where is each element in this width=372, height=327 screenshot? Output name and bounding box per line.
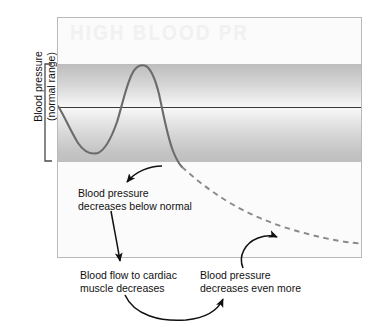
figure-blood-pressure-feedback: Blood pressure (normal range) HIGH BLOOD… [0, 0, 372, 327]
arrow-to-dashed-curve [241, 236, 277, 268]
annotation-bp-even-more-line1: Blood pressure [200, 269, 301, 282]
annotation-bp-even-more-line2: decreases even more [200, 282, 301, 295]
arrow-blood-flow-to-bp-more [125, 295, 223, 320]
arrow-to-bp-below-normal [127, 166, 162, 182]
annotation-blood-flow-cardiac: Blood flow to cardiac muscle decreases [80, 269, 177, 295]
arrow-to-blood-flow [111, 211, 120, 261]
annotation-blood-flow-cardiac-line2: muscle decreases [80, 282, 177, 295]
annotation-blood-flow-cardiac-line1: Blood flow to cardiac [80, 269, 177, 282]
arrow-layer [0, 0, 372, 327]
annotation-bp-below-normal: Blood pressure decreases below normal [78, 187, 192, 213]
annotation-bp-below-normal-line2: decreases below normal [78, 200, 192, 213]
annotation-bp-even-more: Blood pressure decreases even more [200, 269, 301, 295]
annotation-bp-below-normal-line1: Blood pressure [78, 187, 192, 200]
